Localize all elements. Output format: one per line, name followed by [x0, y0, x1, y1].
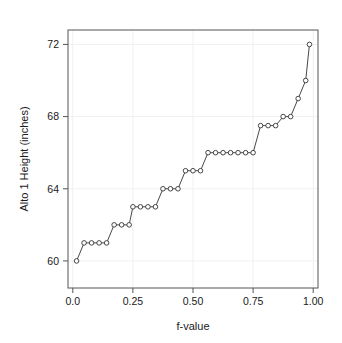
data-point: [296, 96, 301, 101]
y-axis-title: Alto 1 Height (inches): [18, 106, 30, 211]
data-point: [138, 205, 143, 210]
data-point: [213, 150, 218, 155]
x-axis-tick-label: 1.00: [303, 295, 324, 307]
x-axis-title: f-value: [176, 320, 209, 332]
data-point: [288, 114, 293, 119]
plot-canvas: 606468720.00.250.500.751.00f-valueAlto 1…: [0, 0, 342, 343]
y-axis-tick-label: 60: [47, 255, 59, 267]
y-axis-tick-label: 64: [47, 183, 59, 195]
data-point: [104, 241, 109, 246]
data-point: [303, 78, 308, 83]
data-point: [131, 205, 136, 210]
data-point: [161, 186, 166, 191]
x-axis-tick-label: 0.50: [183, 295, 204, 307]
data-point: [236, 150, 241, 155]
x-axis-tick-label: 0.0: [66, 295, 81, 307]
data-point: [273, 123, 278, 128]
data-point: [112, 223, 117, 228]
data-point: [146, 205, 151, 210]
data-point: [251, 150, 256, 155]
data-point: [243, 150, 248, 155]
data-point: [97, 241, 102, 246]
y-axis-tick-label: 68: [47, 110, 59, 122]
data-point: [258, 123, 263, 128]
data-point: [119, 223, 124, 228]
data-point: [89, 241, 94, 246]
y-axis-tick-label: 72: [47, 38, 59, 50]
data-point: [266, 123, 271, 128]
data-point: [127, 223, 132, 228]
data-point: [228, 150, 233, 155]
data-point: [74, 259, 79, 264]
x-axis-tick-label: 0.75: [243, 295, 264, 307]
data-point: [221, 150, 226, 155]
data-point: [281, 114, 286, 119]
data-point: [168, 186, 173, 191]
x-axis-tick-label: 0.25: [123, 295, 144, 307]
data-point: [176, 186, 181, 191]
data-point: [198, 168, 203, 173]
data-point: [183, 168, 188, 173]
data-point: [307, 42, 312, 47]
quantile-plot-figure: 606468720.00.250.500.751.00f-valueAlto 1…: [0, 0, 342, 343]
data-point: [153, 205, 158, 210]
data-point: [191, 168, 196, 173]
data-point: [82, 241, 87, 246]
data-point: [206, 150, 211, 155]
